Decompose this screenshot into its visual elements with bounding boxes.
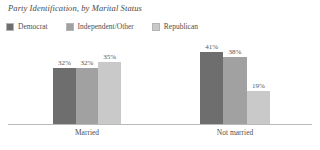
x-axis-line: [8, 124, 312, 125]
chart-title: Party Identification, by Marital Status: [8, 3, 142, 13]
bar-group-not-married: 41% 38% 19% Not married: [200, 36, 270, 124]
bars-married: 32% 32% 35%: [53, 36, 121, 124]
bar-wrap-not-married-independent-other: 38%: [223, 36, 246, 124]
bar-wrap-not-married-democrat: 41%: [200, 36, 223, 124]
legend-entry-democrat[interactable]: Democrat: [6, 23, 48, 31]
bar-chart-figure: Party Identification, by Marital Status …: [0, 0, 320, 150]
plot-area: 32% 32% 35% Married 41%: [0, 36, 320, 150]
bar-value-married-republican: 35%: [98, 54, 121, 61]
bar-married-republican[interactable]: [98, 62, 121, 124]
legend-entry-republican[interactable]: Republican: [152, 23, 198, 31]
bars-not-married: 41% 38% 19%: [200, 36, 270, 124]
bar-value-not-married-republican: 19%: [247, 83, 270, 90]
bar-value-married-independent-other: 32%: [76, 60, 99, 67]
bar-not-married-republican[interactable]: [247, 91, 270, 124]
legend-entry-independent-other[interactable]: Independent/Other: [66, 23, 134, 31]
bar-wrap-married-republican: 35%: [98, 36, 121, 124]
bar-value-married-democrat: 32%: [53, 60, 76, 67]
bar-group-married: 32% 32% 35% Married: [53, 36, 121, 124]
bar-value-not-married-independent-other: 38%: [223, 49, 246, 56]
category-label-not-married: Not married: [174, 128, 296, 137]
legend-swatch-republican: [152, 23, 160, 31]
bar-wrap-married-independent-other: 32%: [76, 36, 99, 124]
bar-not-married-democrat[interactable]: [200, 52, 223, 124]
bar-married-democrat[interactable]: [53, 68, 76, 124]
bar-married-independent-other[interactable]: [76, 68, 99, 124]
bar-value-not-married-democrat: 41%: [200, 44, 223, 51]
legend-swatch-democrat: [6, 23, 14, 31]
bar-not-married-independent-other[interactable]: [223, 57, 246, 124]
legend-label-democrat: Democrat: [18, 23, 48, 31]
bar-wrap-married-democrat: 32%: [53, 36, 76, 124]
chart-legend: Democrat Independent/Other Republican: [6, 21, 216, 33]
legend-swatch-independent-other: [66, 23, 74, 31]
bar-wrap-not-married-republican: 19%: [247, 36, 270, 124]
legend-label-independent-other: Independent/Other: [78, 23, 134, 31]
legend-label-republican: Republican: [164, 23, 198, 31]
category-label-married: Married: [27, 128, 147, 137]
